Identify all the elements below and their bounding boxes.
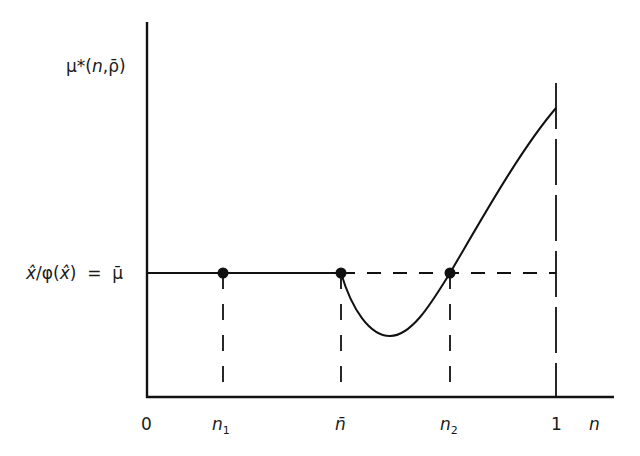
x-tick-nbar: n̄ <box>335 416 346 433</box>
x-tick-n2: n2 <box>440 416 458 433</box>
x-tick-n1: n1 <box>212 416 230 433</box>
x-axis-label-text: n <box>589 414 600 434</box>
level-label: x̂/φ(x̂) = μ̄ <box>26 265 123 282</box>
x-tick-1-label: 1 <box>551 414 562 434</box>
level-label-x1: x̂ <box>26 263 36 283</box>
level-label-end: ) = μ̄ <box>70 263 123 283</box>
y-label-rest: ,ρ̄) <box>103 56 126 76</box>
x-tick-0: 0 <box>141 416 152 433</box>
point-n1 <box>218 268 229 279</box>
y-label-n: n <box>92 56 103 76</box>
x-tick-0-label: 0 <box>141 414 152 434</box>
x-tick-n1-label: n <box>212 414 223 434</box>
x-tick-nbar-label: n̄ <box>335 414 346 434</box>
x-tick-n2-sub: 2 <box>451 424 458 437</box>
y-axis-label: μ*(n,ρ̄) <box>66 58 126 75</box>
point-nbar <box>336 268 347 279</box>
x-tick-n1-sub: 1 <box>223 424 230 437</box>
y-label-mu: μ*( <box>66 56 92 76</box>
level-label-mid: /φ( <box>36 263 60 283</box>
x-axis-label: n <box>589 416 600 433</box>
level-label-x2: x̂ <box>60 263 70 283</box>
mu-star-curve <box>341 108 556 336</box>
point-n2 <box>445 268 456 279</box>
x-tick-n2-label: n <box>440 414 451 434</box>
x-tick-1: 1 <box>551 416 562 433</box>
